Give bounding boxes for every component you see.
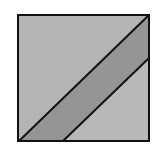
square-diagram — [0, 0, 155, 149]
diagram-canvas — [0, 0, 155, 149]
